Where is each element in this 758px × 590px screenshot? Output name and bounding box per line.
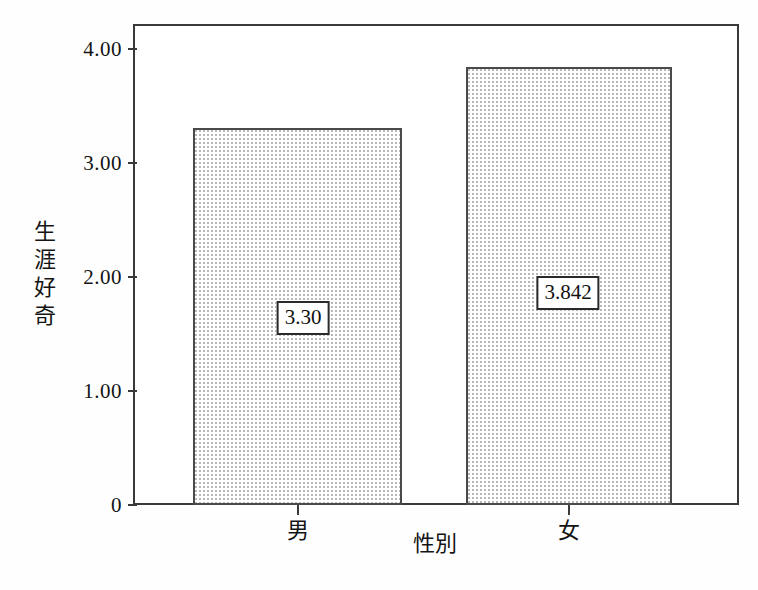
- bar-value-label-female: 3.842: [536, 276, 599, 310]
- x-axis-tick-mark-male: [297, 505, 299, 515]
- y-axis-title-char-3: 奇: [28, 302, 62, 330]
- y-axis-tick-label-1: 1.00: [58, 381, 122, 402]
- x-axis-tick-mark-female: [568, 505, 570, 515]
- y-axis-tick-label-4: 4.00: [58, 39, 122, 60]
- y-axis-tick-mark-3: [128, 162, 137, 164]
- x-axis-tick-label-female: 女: [558, 520, 580, 542]
- y-axis-tick-label-0: 0: [58, 495, 122, 516]
- y-axis-title-char-0: 生: [28, 218, 62, 246]
- y-axis-tick-mark-1: [128, 390, 137, 392]
- y-axis-tick-label-3: 3.00: [58, 153, 122, 174]
- x-axis-title: 性別: [413, 533, 457, 555]
- y-axis-tick-mark-0: [128, 504, 137, 506]
- y-axis-title-char-2: 好: [28, 274, 62, 302]
- y-axis-title-char-1: 涯: [28, 246, 62, 274]
- y-axis-tick-mark-4: [128, 48, 137, 50]
- y-axis-tick-label-2: 2.00: [58, 267, 122, 288]
- y-axis-title: 生 涯 好 奇: [28, 218, 62, 331]
- y-axis-tick-mark-2: [128, 276, 137, 278]
- bar-chart: 4.00 3.00 2.00 1.00 0 生 涯 好 奇 3.30 3.842…: [0, 0, 758, 590]
- x-axis-tick-label-male: 男: [287, 520, 309, 542]
- bar-value-label-male: 3.30: [277, 301, 330, 335]
